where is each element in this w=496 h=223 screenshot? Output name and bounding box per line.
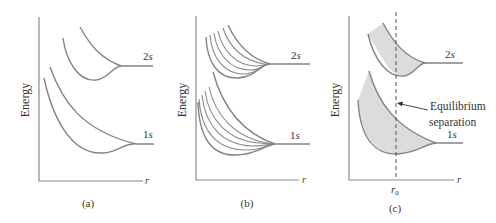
panel-c-y-label: Energy bbox=[328, 83, 342, 117]
panel-a-axes bbox=[39, 17, 143, 181]
panel-c-caption: (c) bbox=[389, 202, 402, 215]
panel-c-2s-label: 2s bbox=[445, 48, 455, 60]
panel-b-1s-label: 1s bbox=[290, 129, 300, 141]
panel-a-2s-label: 2s bbox=[143, 50, 153, 62]
panel-c-annotation-arrow bbox=[401, 104, 428, 110]
panel-b-1s-curves bbox=[198, 72, 310, 155]
panel-a-1s-lower-curve bbox=[44, 78, 134, 153]
panel-c-arrowhead-icon bbox=[397, 102, 403, 107]
panel-b: Energy r (b) 2s 1s bbox=[175, 16, 310, 210]
energy-level-diagram: Energy r (a) 2s 1s Energy r (b) 2s bbox=[0, 0, 496, 223]
panel-b-caption: (b) bbox=[241, 197, 254, 210]
panel-a-caption: (a) bbox=[82, 197, 95, 210]
panel-a-x-label: r bbox=[145, 175, 149, 186]
panel-b-y-label: Energy bbox=[175, 83, 189, 117]
panel-b-x-label: r bbox=[302, 174, 306, 185]
panel-c-annotation-line1: Equilibrium bbox=[430, 100, 486, 113]
panel-c-r0-label: r0 bbox=[391, 183, 399, 197]
panel-c-1s-label: 1s bbox=[447, 128, 457, 140]
panel-a: Energy r (a) 2s 1s bbox=[18, 17, 154, 210]
panel-b-axes bbox=[196, 16, 299, 180]
panel-c: Energy r 2s 1s Equilibrium separation r0… bbox=[328, 12, 486, 215]
panel-a-y-label: Energy bbox=[18, 83, 32, 117]
panel-c-annotation-line2: separation bbox=[429, 116, 477, 129]
panel-b-2s-label: 2s bbox=[291, 49, 301, 61]
panel-c-x-label: r bbox=[457, 174, 461, 185]
panel-a-1s-label: 1s bbox=[143, 128, 153, 140]
